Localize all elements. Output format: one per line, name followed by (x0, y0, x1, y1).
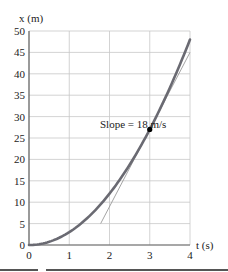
svg-text:0: 0 (26, 249, 32, 261)
svg-text:15: 15 (14, 175, 26, 187)
svg-text:50: 50 (14, 25, 26, 37)
svg-text:30: 30 (14, 111, 26, 123)
svg-text:40: 40 (14, 68, 26, 80)
svg-text:5: 5 (20, 218, 26, 230)
tick-labels: 0510152025303540455001234 (14, 25, 193, 261)
svg-text:45: 45 (14, 46, 26, 58)
svg-text:3: 3 (147, 249, 153, 261)
svg-text:20: 20 (14, 153, 26, 165)
slope-annotation: Slope = 18 m/s (100, 118, 166, 130)
grid-lines (29, 31, 190, 245)
position-time-chart: 0510152025303540455001234 x (m) t (s) Sl… (0, 0, 228, 272)
x-axis-label: t (s) (196, 239, 214, 252)
svg-text:10: 10 (14, 196, 26, 208)
svg-text:2: 2 (107, 249, 113, 261)
svg-text:1: 1 (67, 249, 73, 261)
svg-text:35: 35 (14, 89, 26, 101)
svg-text:0: 0 (20, 239, 26, 251)
footer-bar-left (0, 269, 38, 271)
footer-bar-right (46, 269, 228, 271)
svg-text:4: 4 (187, 249, 193, 261)
svg-text:25: 25 (14, 132, 26, 144)
y-axis-label: x (m) (19, 12, 43, 25)
